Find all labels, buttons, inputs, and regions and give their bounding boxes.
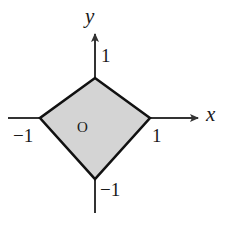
diamond-region	[40, 78, 150, 179]
x-negative-tick-label: −1	[13, 126, 33, 145]
x-axis-label: x	[206, 104, 215, 125]
origin-label: O	[77, 120, 88, 135]
coordinate-diagram: y x 1 1 −1 −1 O	[0, 0, 228, 226]
y-axis-label: y	[85, 6, 94, 27]
y-negative-tick-label: −1	[100, 180, 120, 199]
y-positive-tick-label: 1	[101, 46, 111, 65]
x-positive-tick-label: 1	[152, 126, 162, 145]
